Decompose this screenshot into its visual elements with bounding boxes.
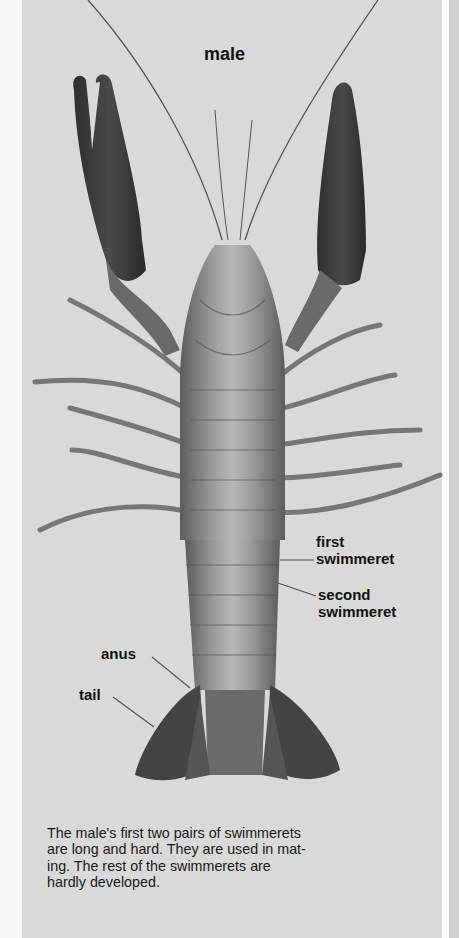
caption-line: hardly developed. xyxy=(47,874,419,890)
caption-line: are long and hard. They are used in mat- xyxy=(47,841,419,857)
label-line: first xyxy=(316,533,394,550)
label-anus: anus xyxy=(101,645,136,662)
label-line: swimmeret xyxy=(316,550,394,567)
label-line: swimmeret xyxy=(318,603,396,620)
caption-text: The male's first two pairs of swimmerets… xyxy=(47,825,419,890)
crayfish-illustration xyxy=(0,0,459,938)
abdomen xyxy=(185,540,280,690)
cephalothorax xyxy=(180,245,285,540)
left-claw xyxy=(73,74,180,356)
label-second-swimmeret: second swimmeret xyxy=(318,586,396,620)
page-title: male xyxy=(204,44,245,65)
caption-line: ing. The rest of the swimmerets are xyxy=(47,858,419,874)
caption-line: The male's first two pairs of swimmerets xyxy=(47,825,419,841)
label-line: second xyxy=(318,586,396,603)
tail-fan xyxy=(135,685,340,780)
right-claw xyxy=(285,83,366,352)
label-first-swimmeret: first swimmeret xyxy=(316,533,394,567)
label-tail: tail xyxy=(79,686,101,703)
